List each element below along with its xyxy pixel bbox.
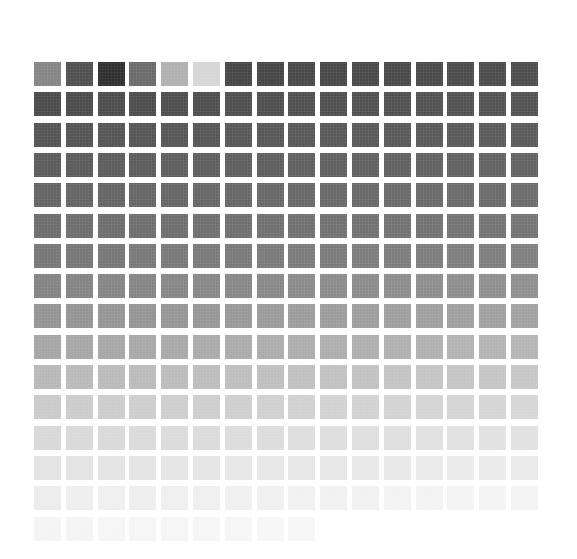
color-swatch [193,183,220,207]
color-swatch [320,153,347,177]
color-swatch [193,486,220,510]
color-swatch [479,426,506,450]
color-swatch [129,517,156,541]
color-swatch [257,92,284,116]
color-swatch [288,335,315,359]
color-swatch [352,123,379,147]
color-swatch [129,304,156,328]
color-swatch [320,274,347,298]
swatch-row [34,123,544,147]
color-swatch [416,274,443,298]
color-swatch [479,335,506,359]
color-swatch [129,153,156,177]
color-swatch [511,365,538,389]
color-swatch [161,486,188,510]
color-swatch [416,62,443,86]
color-swatch [288,395,315,419]
color-swatch [161,517,188,541]
color-swatch [479,365,506,389]
color-swatch [288,183,315,207]
color-swatch [225,456,252,480]
color-swatch [129,335,156,359]
color-swatch [193,244,220,268]
color-swatch [288,244,315,268]
color-swatch [320,335,347,359]
color-swatch [66,62,93,86]
color-swatch [34,123,61,147]
color-swatch [511,395,538,419]
color-swatch [320,365,347,389]
color-swatch [66,456,93,480]
color-swatch [129,426,156,450]
color-swatch [352,335,379,359]
swatch-row [34,214,544,238]
color-swatch [66,244,93,268]
color-swatch [129,244,156,268]
color-swatch [479,274,506,298]
color-swatch [320,123,347,147]
swatch-row [34,153,544,177]
color-swatch [34,365,61,389]
color-swatch [161,183,188,207]
swatch-row [34,183,544,207]
color-swatch [320,304,347,328]
color-swatch [225,244,252,268]
color-swatch [447,62,474,86]
color-swatch [288,517,315,541]
color-swatch [66,92,93,116]
color-swatch [320,486,347,510]
color-swatch [225,426,252,450]
color-swatch [98,153,125,177]
color-swatch [98,335,125,359]
color-swatch [384,304,411,328]
color-swatch [416,335,443,359]
color-swatch [161,92,188,116]
color-swatch [320,214,347,238]
color-swatch [193,365,220,389]
color-swatch [479,456,506,480]
color-swatch [384,426,411,450]
color-swatch [479,214,506,238]
color-swatch [193,426,220,450]
color-swatch [352,183,379,207]
color-swatch [129,365,156,389]
color-swatch [384,244,411,268]
color-swatch [352,274,379,298]
color-swatch [447,304,474,328]
color-swatch [479,486,506,510]
color-swatch [352,244,379,268]
color-swatch [129,214,156,238]
color-swatch [161,304,188,328]
color-swatch [257,123,284,147]
color-swatch [352,456,379,480]
color-swatch [384,274,411,298]
color-swatch [416,183,443,207]
color-swatch [416,365,443,389]
color-swatch [447,153,474,177]
color-swatch [320,92,347,116]
color-swatch [98,426,125,450]
color-swatch [129,456,156,480]
color-swatch [129,62,156,86]
color-swatch [416,304,443,328]
color-swatch [257,62,284,86]
color-swatch [98,214,125,238]
color-swatch [288,426,315,450]
swatch-row [34,395,544,419]
color-swatch [257,426,284,450]
color-swatch [34,456,61,480]
swatch-row [34,62,544,86]
color-swatch [161,244,188,268]
color-swatch [257,395,284,419]
color-swatch [288,365,315,389]
color-swatch [66,153,93,177]
color-swatch [257,183,284,207]
color-swatch [66,426,93,450]
color-swatch [257,365,284,389]
color-swatch [511,214,538,238]
color-swatch [225,517,252,541]
color-swatch [384,335,411,359]
color-swatch [34,183,61,207]
color-swatch [511,456,538,480]
color-swatch [479,62,506,86]
